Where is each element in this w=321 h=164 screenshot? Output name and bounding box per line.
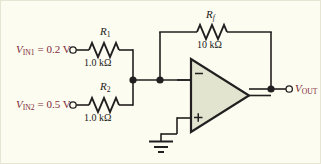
circuit-schematic-canvas bbox=[1, 1, 321, 164]
resistor-r2-subscript: 2 bbox=[107, 85, 111, 94]
input1-voltage-subscript: IN1 bbox=[23, 48, 35, 57]
resistor-r2-name: R bbox=[100, 80, 107, 92]
opamp-triangle-body bbox=[191, 59, 249, 132]
input1-voltage-label: VIN1 = 0.2 V bbox=[16, 44, 71, 55]
output-voltage-symbol: V bbox=[295, 82, 302, 94]
input1-voltage-value: = 0.2 V bbox=[35, 43, 71, 55]
resistor-r2-label: R2 bbox=[100, 81, 111, 92]
resistor-r2-symbol bbox=[89, 98, 119, 112]
input2-voltage-value: = 0.5 V bbox=[35, 98, 71, 110]
output-voltage-subscript: OUT bbox=[302, 87, 318, 96]
resistor-rf-symbol bbox=[197, 25, 227, 39]
resistor-rf-subscript: f bbox=[213, 13, 215, 22]
input1-voltage-symbol: V bbox=[16, 43, 23, 55]
input2-voltage-symbol: V bbox=[16, 98, 23, 110]
resistor-rf-name: R bbox=[206, 8, 213, 20]
junction-dot-summing-node bbox=[129, 76, 136, 83]
resistor-rf-value: 10 kΩ bbox=[197, 40, 222, 50]
resistor-rf-label: Rf bbox=[206, 9, 215, 20]
resistor-r1-subscript: 1 bbox=[107, 30, 111, 39]
resistor-r1-symbol bbox=[89, 43, 119, 57]
input2-voltage-label: VIN2 = 0.5 V bbox=[16, 99, 71, 110]
input2-voltage-subscript: IN2 bbox=[23, 103, 35, 112]
resistor-r2-value: 1.0 kΩ bbox=[84, 113, 111, 123]
output-terminal-node bbox=[286, 86, 292, 92]
circuit-figure: VIN1 = 0.2 V R1 1.0 kΩ VIN2 = 0.5 V R2 1… bbox=[0, 0, 321, 164]
resistor-r1-label: R1 bbox=[100, 26, 111, 37]
output-voltage-label: VOUT bbox=[295, 83, 318, 94]
resistor-r1-name: R bbox=[100, 25, 107, 37]
resistor-r1-value: 1.0 kΩ bbox=[84, 58, 111, 68]
